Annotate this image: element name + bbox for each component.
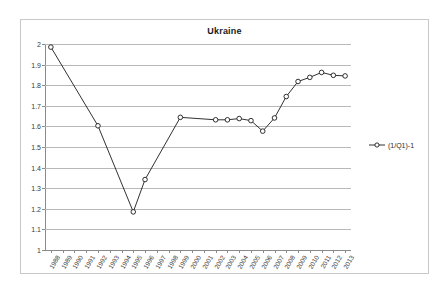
data-point-marker [237,116,242,121]
x-tick-mark [298,250,299,253]
x-tick-mark [310,250,311,253]
x-tick-label: 1994 [118,254,131,270]
y-tick-label: 1.3 [31,185,41,192]
data-point-marker [213,118,218,123]
data-point-marker [272,116,277,121]
y-tick-label: 1.6 [31,123,41,130]
x-tick-mark [51,250,52,253]
x-tick-label: 2000 [189,254,202,270]
x-tick-label: 1997 [154,254,167,270]
x-tick-mark [86,250,87,253]
data-point-marker [308,75,313,80]
x-tick-label: 1992 [95,254,108,270]
x-tick-mark [169,250,170,253]
x-tick-label: 2003 [224,254,237,270]
x-tick-label: 2011 [319,254,332,270]
x-tick-mark [74,250,75,253]
x-tick-mark [157,250,158,253]
y-tick-mark [42,250,45,251]
y-tick-label: 1 [37,247,41,254]
series-line [51,47,345,212]
y-tick-label: 1.1 [31,226,41,233]
x-tick-label: 2009 [295,254,308,270]
x-tick-label: 1990 [71,254,84,270]
x-tick-mark [333,250,334,253]
data-point-marker [143,177,148,182]
x-tick-mark [263,250,264,253]
legend-marker-icon [369,141,385,149]
x-tick-mark [239,250,240,253]
data-point-marker [249,118,254,123]
y-tick-label: 1.8 [31,82,41,89]
x-tick-mark [145,250,146,253]
data-point-marker [131,210,136,215]
legend-label: (1/Q1)-1 [388,142,414,149]
x-tick-label: 1991 [83,254,96,270]
chart-frame: Ukraine 11.11.21.31.41.51.61.71.81.92 19… [20,19,429,274]
gridline [45,250,351,251]
x-tick-label: 1996 [142,254,155,270]
x-tick-mark [227,250,228,253]
y-tick-label: 1.2 [31,205,41,212]
x-tick-label: 1995 [130,254,143,270]
x-tick-label: 1993 [106,254,119,270]
x-tick-label: 2008 [283,254,296,270]
x-tick-label: 1988 [48,254,61,270]
x-tick-mark [216,250,217,253]
x-tick-mark [63,250,64,253]
y-tick-label: 1.5 [31,144,41,151]
chart-legend: (1/Q1)-1 [369,141,414,149]
x-tick-label: 2007 [271,254,284,270]
x-tick-mark [322,250,323,253]
x-tick-mark [98,250,99,253]
x-tick-mark [180,250,181,253]
x-tick-mark [192,250,193,253]
y-tick-label: 2 [37,41,41,48]
y-tick-label: 1.9 [31,61,41,68]
data-series-line [45,44,351,250]
x-tick-label: 1989 [59,254,72,270]
x-tick-label: 2001 [201,254,214,270]
x-tick-label: 2012 [330,254,343,270]
plot-area: 11.11.21.31.41.51.61.71.81.92 1988198919… [45,44,351,250]
y-tick-label: 1.4 [31,164,41,171]
data-point-marker [331,73,336,78]
x-tick-label: 2002 [212,254,225,270]
x-tick-mark [251,250,252,253]
x-tick-label: 1998 [165,254,178,270]
data-point-marker [225,118,230,123]
x-tick-mark [275,250,276,253]
x-tick-label: 2006 [259,254,272,270]
data-point-marker [96,123,101,128]
x-tick-label: 2004 [236,254,249,270]
data-point-marker [260,129,265,134]
data-point-marker [178,115,183,120]
data-point-marker [343,74,348,79]
x-tick-mark [110,250,111,253]
chart-title: Ukraine [21,26,428,36]
data-point-marker [296,79,301,84]
x-tick-mark [286,250,287,253]
x-tick-mark [122,250,123,253]
x-tick-label: 1999 [177,254,190,270]
x-tick-label: 2013 [342,254,355,270]
x-tick-mark [345,250,346,253]
data-point-marker [284,94,289,99]
data-point-marker [319,70,324,75]
x-tick-mark [204,250,205,253]
x-tick-label: 2010 [307,254,320,270]
y-tick-label: 1.7 [31,102,41,109]
data-point-marker [49,45,54,50]
x-tick-label: 2005 [248,254,261,270]
x-tick-mark [133,250,134,253]
